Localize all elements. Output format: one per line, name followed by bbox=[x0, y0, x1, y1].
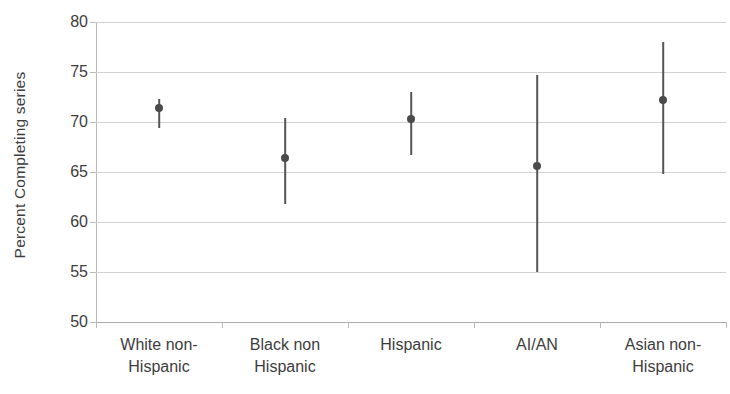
x-axis-category-label: Asian non-Hispanic bbox=[588, 334, 730, 377]
y-axis-tick-label: 75 bbox=[28, 64, 88, 80]
x-axis-tick-mark bbox=[348, 322, 349, 328]
x-axis-category-label-line: Asian non- bbox=[588, 334, 730, 356]
y-axis-tick-label: 60 bbox=[28, 214, 88, 230]
error-bar bbox=[410, 92, 412, 155]
data-point-marker bbox=[407, 115, 415, 123]
y-axis-tick-label: 65 bbox=[28, 164, 88, 180]
chart-figure: Percent Completing series 50556065707580… bbox=[0, 0, 730, 394]
x-axis-category-label-line: Hispanic bbox=[588, 356, 730, 378]
y-axis-title: Percent Completing series bbox=[11, 72, 29, 259]
x-axis-tick-mark bbox=[96, 322, 97, 328]
data-point-marker bbox=[281, 154, 289, 162]
data-point-marker bbox=[659, 96, 667, 104]
data-point-marker bbox=[533, 162, 541, 170]
y-axis-tick-label: 50 bbox=[28, 314, 88, 330]
error-bar bbox=[662, 42, 664, 174]
x-axis-tick-mark bbox=[222, 322, 223, 328]
data-point-marker bbox=[155, 104, 163, 112]
x-axis-tick-mark bbox=[600, 322, 601, 328]
gridline bbox=[96, 172, 726, 173]
y-axis-tick-label: 70 bbox=[28, 114, 88, 130]
y-axis-tick-label: 80 bbox=[28, 14, 88, 30]
gridline bbox=[96, 272, 726, 273]
gridline bbox=[96, 72, 726, 73]
gridline bbox=[96, 322, 726, 323]
y-axis-tick-label: 55 bbox=[28, 264, 88, 280]
gridline bbox=[96, 222, 726, 223]
plot-area bbox=[96, 22, 726, 322]
gridline bbox=[96, 22, 726, 23]
error-bar bbox=[536, 75, 538, 272]
x-axis-tick-mark bbox=[474, 322, 475, 328]
x-axis-tick-mark bbox=[726, 322, 727, 328]
x-axis-category-label-line: Hispanic bbox=[210, 356, 360, 378]
